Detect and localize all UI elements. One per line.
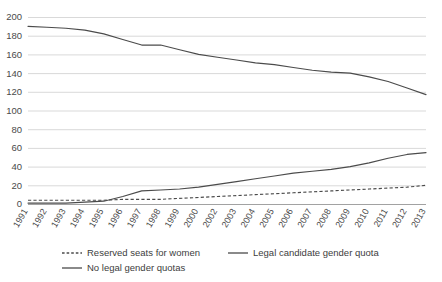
x-tick-label: 2007 — [295, 207, 314, 229]
x-tick-label: 1999 — [163, 207, 182, 229]
x-tick-label: 2002 — [201, 207, 220, 229]
gridlines — [28, 18, 426, 186]
x-tick-label: 1992 — [30, 207, 49, 229]
x-tick-label: 1998 — [144, 207, 163, 229]
series-line-legal-candidate-gender-quota — [28, 153, 426, 203]
series-line-reserved-seats-for-women — [28, 185, 426, 200]
y-tick-label: 180 — [6, 30, 22, 41]
legend-label: No legal gender quotas — [87, 262, 185, 273]
x-tick-label: 2008 — [314, 207, 333, 229]
line-chart: 020406080100120140160180200 199119921993… — [0, 0, 442, 282]
y-tick-label: 20 — [11, 180, 22, 191]
x-tick-label: 1993 — [49, 207, 68, 229]
y-axis-tick-labels: 020406080100120140160180200 — [6, 11, 22, 209]
x-tick-label: 2013 — [409, 207, 428, 229]
y-tick-label: 140 — [6, 68, 22, 79]
x-tick-label: 2011 — [371, 207, 389, 229]
y-tick-label: 120 — [6, 86, 22, 97]
x-tick-label: 2005 — [257, 207, 276, 229]
y-tick-label: 40 — [11, 161, 22, 172]
y-tick-label: 100 — [6, 105, 22, 116]
x-tick-label: 1996 — [106, 207, 125, 229]
x-tick-label: 2006 — [276, 207, 295, 229]
x-tick-label: 1995 — [87, 207, 106, 229]
x-tick-label: 2004 — [238, 207, 257, 229]
y-tick-label: 200 — [6, 11, 22, 22]
x-tick-label: 1997 — [125, 207, 144, 229]
x-tick-label: 2012 — [390, 207, 409, 229]
x-tick-label: 1991 — [11, 207, 30, 229]
x-tick-label: 2003 — [220, 207, 239, 229]
x-tick-label: 2009 — [333, 207, 352, 229]
chart-canvas: 020406080100120140160180200 199119921993… — [0, 0, 442, 282]
legend-label: Legal candidate gender quota — [253, 247, 379, 258]
x-axis-tick-labels: 1991199219931994199519961997199819992000… — [11, 207, 428, 229]
y-tick-label: 60 — [11, 142, 22, 153]
chart-legend: Reserved seats for womenLegal candidate … — [62, 247, 379, 273]
x-tick-label: 2010 — [352, 207, 371, 229]
legend-label: Reserved seats for women — [87, 247, 200, 258]
y-tick-label: 160 — [6, 49, 22, 60]
y-tick-label: 80 — [11, 124, 22, 135]
series-line-no-legal-gender-quotas — [28, 26, 426, 94]
series-paths — [28, 26, 426, 203]
x-tick-label: 1994 — [68, 207, 87, 229]
x-tick-label: 2000 — [182, 207, 201, 229]
